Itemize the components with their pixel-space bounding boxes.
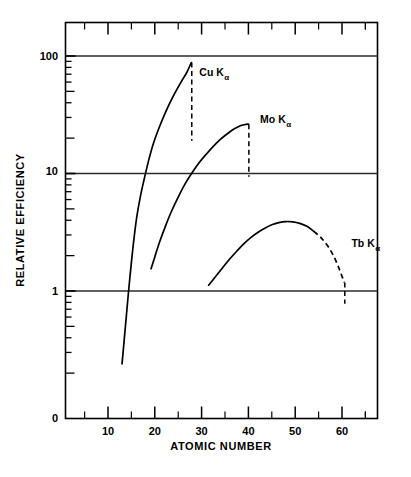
cu-k-alpha-subscript: α bbox=[224, 73, 229, 82]
mo-k-alpha-label: Mo K bbox=[260, 113, 286, 125]
tb-k-alpha-label: Tb K bbox=[351, 237, 375, 249]
x-tick-label-30: 30 bbox=[195, 425, 207, 437]
relative-efficiency-chart: 100 10 1 0 102030405060 ATOMIC NUMBER RE… bbox=[0, 0, 411, 477]
x-tick-label-10: 10 bbox=[102, 425, 114, 437]
x-tick-label-20: 20 bbox=[149, 425, 161, 437]
x-tick-label-50: 50 bbox=[289, 425, 301, 437]
y-axis-title: RELATIVE EFFICIENCY bbox=[14, 153, 26, 286]
x-tick-label-40: 40 bbox=[242, 425, 254, 437]
x-tick-label-60: 60 bbox=[336, 425, 348, 437]
y-tick-label-100: 100 bbox=[40, 50, 58, 62]
mo-k-alpha-subscript: α bbox=[286, 120, 291, 129]
cu-k-alpha-label: Cu K bbox=[199, 66, 224, 78]
y-tick-label-10: 10 bbox=[46, 165, 58, 177]
x-axis-title: ATOMIC NUMBER bbox=[170, 440, 272, 452]
tb-k-alpha-subscript: α bbox=[375, 244, 380, 253]
y-tick-label-0: 0 bbox=[52, 412, 58, 424]
figure-container: 100 10 1 0 102030405060 ATOMIC NUMBER RE… bbox=[0, 0, 411, 477]
y-tick-label-1: 1 bbox=[52, 285, 58, 297]
